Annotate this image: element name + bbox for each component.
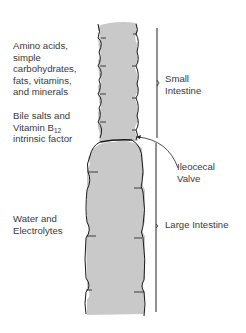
text-line: carbohydrates, bbox=[13, 63, 76, 75]
text-line: Vitamin B12 bbox=[13, 122, 72, 134]
small-intestine-shape bbox=[98, 22, 138, 141]
text-line: and minerals bbox=[13, 86, 76, 98]
text-line: Amino acids, bbox=[13, 40, 76, 52]
label-ileocecal-valve: Ileocecal Valve bbox=[177, 161, 215, 184]
text-line: Ileocecal bbox=[177, 161, 215, 173]
text-line: Electrolytes bbox=[13, 225, 63, 237]
label-large-intestine: Large Intestine bbox=[165, 219, 228, 231]
text-line: Valve bbox=[177, 173, 215, 185]
text-line: intrinsic factor bbox=[13, 133, 72, 145]
text-vitamin: Vitamin B bbox=[13, 122, 54, 133]
label-bile-salts-b12: Bile salts and Vitamin B12 intrinsic fac… bbox=[13, 110, 72, 145]
text-line: Bile salts and bbox=[13, 110, 72, 122]
ileocecal-pointer-line bbox=[138, 137, 178, 168]
large-intestine-shape bbox=[86, 141, 145, 315]
text-line: Water and bbox=[13, 213, 63, 225]
label-water-electrolytes: Water and Electrolytes bbox=[13, 213, 63, 236]
text-line: Intestine bbox=[165, 85, 201, 97]
text-line: Small bbox=[165, 73, 201, 85]
text-line: simple bbox=[13, 52, 76, 64]
label-small-intestine: Small Intestine bbox=[165, 73, 201, 96]
text-line: Large Intestine bbox=[165, 219, 228, 230]
label-small-intestine-nutrients: Amino acids, simple carbohydrates, fats,… bbox=[13, 40, 76, 98]
text-line: fats, vitamins, bbox=[13, 75, 76, 87]
